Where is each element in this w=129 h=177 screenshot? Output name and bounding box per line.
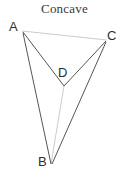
vertex-label-b: B — [38, 155, 47, 168]
edge-A-C — [22, 31, 107, 40]
vertex-label-c: C — [107, 29, 116, 42]
edge-C-D — [64, 41, 106, 86]
concave-polygon-figure: Concave A C D B — [0, 0, 129, 177]
edge-C-B — [52, 42, 106, 164]
vertex-label-a: A — [9, 20, 18, 33]
vertex-label-d: D — [58, 66, 67, 79]
figure-drawing-canvas — [0, 0, 129, 177]
edge-A-B — [23, 33, 51, 164]
